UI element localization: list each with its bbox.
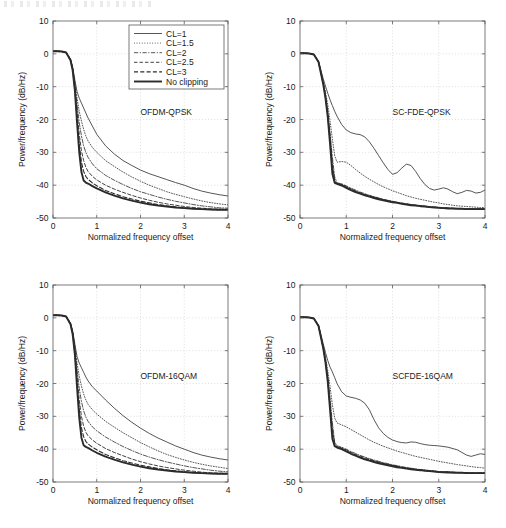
xtick-label: 2	[390, 221, 395, 231]
ytick-label: 0	[291, 49, 296, 59]
xtick-label: 1	[94, 485, 99, 495]
plot-panel-3: 01234100-10-20-30-40-50Normalized freque…	[17, 280, 231, 506]
xtick-label: 0	[298, 485, 303, 495]
y-axis-title: Power/frequency (dB/Hz)	[17, 336, 27, 431]
ytick-label: 0	[291, 313, 296, 323]
ytick-label: -10	[283, 82, 296, 92]
legend: CL=1CL=1.5CL=2CL=2.5CL=3No clipping	[129, 25, 224, 89]
ytick-label: -40	[36, 180, 49, 190]
xtick-label: 1	[344, 221, 349, 231]
ytick-label: -40	[283, 180, 296, 190]
y-axis-title: Power/frequency (dB/Hz)	[17, 72, 27, 167]
plot-panel-4: 01234100-10-20-30-40-50Normalized freque…	[264, 280, 488, 506]
legend-label: CL=1.5	[166, 38, 194, 48]
x-axis-title: Normalized frequency offset	[340, 496, 446, 506]
ytick-label: 0	[44, 49, 49, 59]
xtick-label: 4	[483, 485, 488, 495]
ytick-label: -30	[36, 147, 49, 157]
panel-title-3: OFDM-16QAM	[141, 371, 198, 381]
panel-title-4: SCFDE-16QAM	[393, 371, 453, 381]
ytick-label: -30	[283, 411, 296, 421]
legend-label: CL=1	[166, 29, 187, 39]
ytick-label: -50	[36, 213, 49, 223]
axis-ticks: 01234100-10-20-30-40-50	[283, 280, 487, 495]
psd-figure: 01234100-10-20-30-40-50Normalized freque…	[0, 0, 506, 528]
xtick-label: 4	[483, 221, 488, 231]
ytick-label: -50	[36, 477, 49, 487]
legend-label: CL=2	[166, 48, 187, 58]
y-axis-title: Power/frequency (dB/Hz)	[264, 336, 274, 431]
ytick-label: 10	[286, 280, 296, 290]
ytick-label: -10	[36, 346, 49, 356]
ytick-label: 10	[39, 16, 49, 26]
xtick-label: 3	[436, 485, 441, 495]
ytick-label: -20	[36, 115, 49, 125]
plot-panel-2: 01234100-10-20-30-40-50Normalized freque…	[264, 16, 488, 242]
ytick-label: -40	[283, 444, 296, 454]
xtick-label: 0	[51, 485, 56, 495]
xtick-label: 0	[298, 221, 303, 231]
xtick-label: 2	[138, 221, 143, 231]
xtick-label: 2	[390, 485, 395, 495]
xtick-label: 0	[51, 221, 56, 231]
xtick-label: 1	[94, 221, 99, 231]
ytick-label: -20	[36, 379, 49, 389]
x-axis-title: Normalized frequency offset	[88, 232, 194, 242]
ytick-label: -50	[283, 213, 296, 223]
ytick-label: 10	[286, 16, 296, 26]
panel-title-1: OFDM-QPSK	[141, 107, 193, 117]
y-axis-title: Power/frequency (dB/Hz)	[264, 72, 274, 167]
legend-label: No clipping	[166, 77, 208, 87]
ytick-label: -10	[283, 346, 296, 356]
ytick-label: 0	[44, 313, 49, 323]
axis-ticks: 01234100-10-20-30-40-50	[36, 280, 230, 495]
panel-title-2: SC-FDE-QPSK	[393, 107, 451, 117]
xtick-label: 4	[226, 485, 231, 495]
gridlines	[53, 285, 228, 482]
ytick-label: 10	[39, 280, 49, 290]
ytick-label: -50	[283, 477, 296, 487]
ytick-label: -20	[283, 115, 296, 125]
axis-ticks: 01234100-10-20-30-40-50	[283, 16, 487, 231]
xtick-label: 4	[226, 221, 231, 231]
legend-label: CL=3	[166, 67, 187, 77]
xtick-label: 3	[182, 485, 187, 495]
xtick-label: 3	[436, 221, 441, 231]
ytick-label: -10	[36, 82, 49, 92]
x-axis-title: Normalized frequency offset	[340, 232, 446, 242]
xtick-label: 1	[344, 485, 349, 495]
legend-label: CL=2.5	[166, 57, 194, 67]
ytick-label: -20	[283, 379, 296, 389]
xtick-label: 3	[182, 221, 187, 231]
ytick-label: -30	[36, 411, 49, 421]
ytick-label: -30	[283, 147, 296, 157]
ytick-label: -40	[36, 444, 49, 454]
x-axis-title: Normalized frequency offset	[88, 496, 194, 506]
xtick-label: 2	[138, 485, 143, 495]
